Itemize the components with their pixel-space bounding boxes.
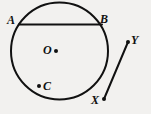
point-label-b: B	[100, 13, 108, 25]
point-label-x: X	[91, 94, 99, 106]
point-label-o: O	[43, 44, 52, 56]
geometry-diagram: A B O C X Y	[0, 0, 151, 114]
diagram-canvas	[0, 0, 151, 114]
point-c-dot	[37, 84, 41, 88]
point-label-a: A	[7, 14, 15, 26]
point-x-dot	[102, 97, 106, 101]
point-label-c: C	[43, 80, 51, 92]
point-label-y: Y	[131, 34, 138, 46]
circle-shape	[11, 3, 108, 100]
point-o-dot	[54, 49, 58, 53]
point-y-dot	[126, 40, 130, 44]
